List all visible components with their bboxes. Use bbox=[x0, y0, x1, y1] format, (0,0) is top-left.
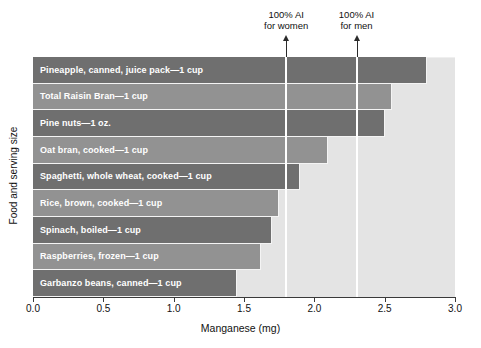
x-axis-tick bbox=[244, 297, 245, 302]
bar[interactable]: Spinach, boiled—1 cup bbox=[33, 217, 272, 244]
annotation-100-percent-ai-for-men: 100% AI for men bbox=[297, 9, 417, 31]
annotation-arrow-men bbox=[357, 40, 358, 57]
reference-line-men bbox=[356, 57, 358, 297]
bar-row: Rice, brown, cooked—1 cup bbox=[33, 190, 455, 217]
bar-row: Spaghetti, whole wheat, cooked—1 cup bbox=[33, 164, 455, 191]
bar[interactable]: Oat bran, cooked—1 cup bbox=[33, 137, 328, 164]
bar-label: Rice, brown, cooked—1 cup bbox=[33, 198, 162, 208]
x-axis-tick-label: 3.0 bbox=[448, 303, 462, 314]
x-axis-tick bbox=[385, 297, 386, 302]
bar-row: Raspberries, frozen—1 cup bbox=[33, 244, 455, 271]
x-axis-tick bbox=[455, 297, 456, 302]
bar-label: Spinach, boiled—1 cup bbox=[33, 225, 141, 235]
bar[interactable]: Pine nuts—1 oz. bbox=[33, 110, 385, 137]
bar-row: Oat bran, cooked—1 cup bbox=[33, 137, 455, 164]
bar-label: Total Raisin Bran—1 cup bbox=[33, 91, 148, 101]
x-axis-tick bbox=[174, 297, 175, 302]
manganese-bar-chart: 100% AI for women 100% AI for men Pineap… bbox=[0, 0, 481, 348]
bar-row: Total Raisin Bran—1 cup bbox=[33, 84, 455, 111]
bar-row: Garbanzo beans, canned—1 cup bbox=[33, 270, 455, 297]
bar-label: Oat bran, cooked—1 cup bbox=[33, 145, 148, 155]
x-axis-tick-label: 0.0 bbox=[26, 303, 40, 314]
y-axis-title: Food and serving size bbox=[8, 86, 19, 266]
x-axis-tick bbox=[314, 297, 315, 302]
annotation-line-1: 100% AI bbox=[297, 9, 417, 20]
x-axis-tick-label: 1.5 bbox=[237, 303, 251, 314]
x-axis-tick-label: 2.0 bbox=[307, 303, 321, 314]
bar-row: Pineapple, canned, juice pack—1 cup bbox=[33, 57, 455, 84]
bar-row: Pine nuts—1 oz. bbox=[33, 110, 455, 137]
x-axis-tick-label: 0.5 bbox=[96, 303, 110, 314]
bar-label: Pine nuts—1 oz. bbox=[33, 118, 111, 128]
x-axis-tick-label: 2.5 bbox=[378, 303, 392, 314]
bar[interactable]: Spaghetti, whole wheat, cooked—1 cup bbox=[33, 164, 300, 191]
bar[interactable]: Raspberries, frozen—1 cup bbox=[33, 244, 261, 271]
bar[interactable]: Garbanzo beans, canned—1 cup bbox=[33, 270, 237, 297]
reference-line-women bbox=[285, 57, 287, 297]
x-axis-tick bbox=[33, 297, 34, 302]
bar[interactable]: Total Raisin Bran—1 cup bbox=[33, 84, 392, 111]
bar-label: Pineapple, canned, juice pack—1 cup bbox=[33, 65, 203, 75]
bar[interactable]: Rice, brown, cooked—1 cup bbox=[33, 190, 279, 217]
bar-label: Raspberries, frozen—1 cup bbox=[33, 251, 159, 261]
x-axis-tick-label: 1.0 bbox=[167, 303, 181, 314]
plot-area: Pineapple, canned, juice pack—1 cupTotal… bbox=[33, 57, 455, 297]
x-axis-tick bbox=[103, 297, 104, 302]
bar-label: Spaghetti, whole wheat, cooked—1 cup bbox=[33, 171, 212, 181]
bar-label: Garbanzo beans, canned—1 cup bbox=[33, 278, 182, 288]
annotation-arrow-women bbox=[286, 40, 287, 57]
bar-row: Spinach, boiled—1 cup bbox=[33, 217, 455, 244]
annotation-line-2: for men bbox=[297, 20, 417, 31]
bar[interactable]: Pineapple, canned, juice pack—1 cup bbox=[33, 57, 427, 84]
x-axis-title: Manganese (mg) bbox=[0, 322, 481, 334]
